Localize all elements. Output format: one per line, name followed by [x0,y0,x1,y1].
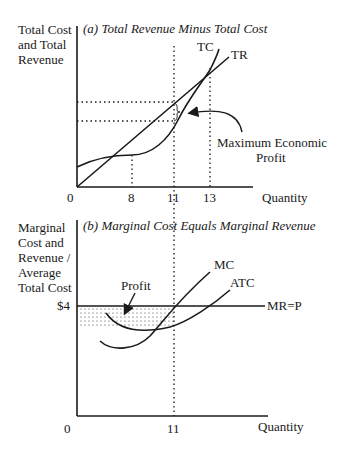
panel-a-tick-8: 8 [128,190,135,205]
profit-label: Profit [121,278,151,293]
mc-label: MC [214,257,234,272]
atc-label: ATC [230,275,255,290]
panel-a-xlabel: Quantity [262,190,308,205]
panel-a-ylabel-line1: Total Cost [18,22,72,37]
max-profit-label-line1: Maximum Economic [217,135,327,150]
economics-diagram: Total Cost and Total Revenue (a) Total R… [0,0,339,449]
panel-b-xlabel: Quantity [258,419,304,434]
panel-b-ylabel-line5: Total Cost [18,280,72,295]
panel-a-ylabel-line3: Revenue [18,52,64,67]
max-profit-label-line2: Profit [256,150,286,165]
panel-b-ylabel-line2: Cost and [18,235,64,250]
panel-b-tick-0: 0 [64,421,71,436]
panel-a: Total Cost and Total Revenue (a) Total R… [18,21,327,205]
max-profit-arrow [190,111,242,132]
panel-a-tick-11: 11 [167,190,180,205]
price-label: $4 [57,298,71,313]
panel-a-tick-0: 0 [67,190,74,205]
panel-a-tick-13: 13 [203,190,216,205]
panel-b-tick-11: 11 [167,421,180,436]
panel-b-ylabel-line1: Marginal [18,220,66,235]
tc-label: TC [197,39,214,54]
mr-label: MR=P [267,298,302,313]
tc-curve [77,49,219,167]
panel-a-ylabel-line2: and Total [18,37,67,52]
tr-label: TR [231,47,248,62]
panel-b-title: (b) Marginal Cost Equals Marginal Revenu… [83,218,316,233]
panel-b-ylabel-line3: Revenue / [18,250,71,265]
panel-b: Marginal Cost and Revenue / Average Tota… [18,218,316,436]
panel-b-ylabel-line4: Average [18,265,61,280]
panel-a-title: (a) Total Revenue Minus Total Cost [83,21,268,36]
